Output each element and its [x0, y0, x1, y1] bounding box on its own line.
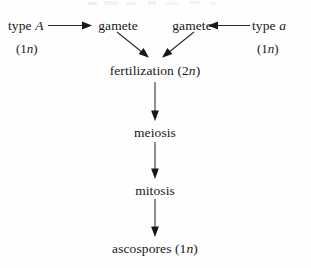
- edge-fertilization-to-meiosis: [151, 82, 159, 121]
- edge-gamete-right-to-fertilization: [162, 32, 194, 58]
- life-cycle-diagram: type A (1n) type a (1n) gamete gamete fe…: [0, 0, 311, 268]
- node-gamete-left: gamete: [98, 19, 138, 33]
- edge-type-a-to-gamete-right: [208, 22, 250, 30]
- ploidy-type-A-close: ): [33, 41, 37, 56]
- node-fertilization-close: ): [196, 63, 201, 78]
- edge-type-A-to-gamete-left: [48, 22, 92, 30]
- node-fertilization: fertilization (2n): [110, 64, 201, 78]
- scan-artifact: [148, 1, 156, 5]
- ploidy-type-A-open: (1: [16, 41, 27, 56]
- ploidy-type-a-close: ): [274, 41, 278, 56]
- scan-artifact: [190, 1, 200, 4]
- scan-artifact: [210, 2, 217, 5]
- node-ascospores: ascospores (1n): [112, 242, 198, 256]
- ploidy-type-A: (1n): [16, 42, 38, 55]
- node-type-A: type A: [8, 19, 43, 33]
- node-type-A-prefix: type: [8, 18, 35, 33]
- scan-artifact: [166, 2, 178, 5]
- scan-artifact: [126, 2, 137, 5]
- node-meiosis: meiosis: [134, 126, 176, 140]
- node-fertilization-text: fertilization (2: [110, 63, 189, 78]
- ploidy-type-a-open: (1: [257, 41, 268, 56]
- node-ascospores-text: ascospores (1: [112, 241, 186, 256]
- node-type-a-prefix: type: [252, 18, 279, 33]
- scan-artifact: [104, 1, 118, 5]
- node-ascospores-close: ): [193, 241, 198, 256]
- edge-gamete-left-to-fertilization: [117, 32, 149, 58]
- node-gamete-right: gamete: [172, 19, 212, 33]
- edge-meiosis-to-mitosis: [151, 142, 159, 179]
- node-mitosis: mitosis: [135, 184, 175, 198]
- scan-artifact: [88, 2, 97, 5]
- node-type-a: type a: [252, 19, 286, 33]
- node-type-a-symbol: a: [279, 18, 286, 33]
- ploidy-type-a: (1n): [257, 42, 279, 55]
- node-type-A-symbol: A: [35, 18, 43, 33]
- edge-mitosis-to-ascospores: [151, 199, 159, 237]
